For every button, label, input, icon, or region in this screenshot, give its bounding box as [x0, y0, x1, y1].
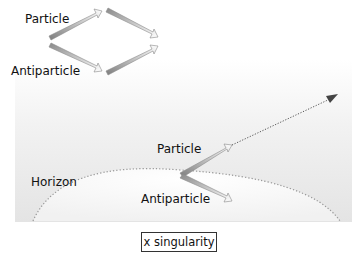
- antiparticle-return-arrow-icon: [106, 45, 158, 75]
- horizon-label: Horizon: [31, 175, 77, 189]
- escape-path: [232, 99, 330, 145]
- bottom-antiparticle-label: Antiparticle: [141, 192, 210, 206]
- top-antiparticle-label: Antiparticle: [11, 64, 80, 78]
- escape-arrowhead-icon: [326, 94, 338, 103]
- singularity-label: x singularity: [141, 232, 217, 252]
- top-particle-label: Particle: [25, 12, 69, 26]
- particle-return-arrow-icon: [106, 8, 158, 38]
- diagram-canvas: [0, 0, 352, 263]
- bottom-particle-label: Particle: [157, 142, 201, 156]
